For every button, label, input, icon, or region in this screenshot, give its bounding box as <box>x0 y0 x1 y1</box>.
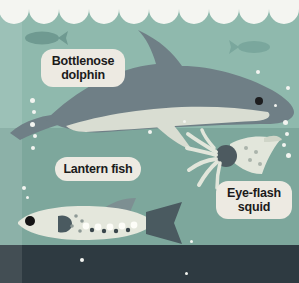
bubble <box>183 120 186 123</box>
bubble <box>286 86 290 90</box>
bubble <box>22 186 26 190</box>
bubble <box>283 120 288 125</box>
bubble <box>32 110 36 114</box>
wave-surface-icon <box>0 0 299 26</box>
bubble <box>148 130 152 134</box>
label-lantern-fish: Lantern fish <box>55 157 141 181</box>
left-light-strip-lower <box>0 245 22 283</box>
bubble <box>285 132 289 136</box>
lantern-fish-eye-icon <box>25 216 35 226</box>
bubble <box>256 70 260 74</box>
bubble <box>286 153 291 158</box>
bubble <box>282 143 286 147</box>
bubble <box>30 98 35 103</box>
dolphin-eye-icon <box>255 97 263 105</box>
label-bottlenose-dolphin: Bottlenose dolphin <box>41 49 125 87</box>
ocean-illustration: Bottlenose dolphin Lantern fish Eye-flas… <box>0 0 299 283</box>
bubble <box>33 134 37 138</box>
label-line-1: Lantern fish <box>59 162 137 176</box>
label-line-1: Eye-flash <box>220 186 288 200</box>
seafloor-band <box>0 245 299 283</box>
bubble <box>80 258 84 262</box>
label-line-1: Bottlenose <box>47 54 119 68</box>
bubble <box>30 122 35 127</box>
label-line-2: dolphin <box>47 68 119 82</box>
label-line-2: squid <box>220 200 288 214</box>
label-eye-flash-squid: Eye-flash squid <box>216 181 292 219</box>
bubble <box>26 196 29 199</box>
bubble <box>185 272 188 275</box>
bubble <box>31 146 35 150</box>
bubble <box>274 104 277 107</box>
lantern-fish-icon <box>12 196 192 250</box>
bubble <box>190 240 193 243</box>
